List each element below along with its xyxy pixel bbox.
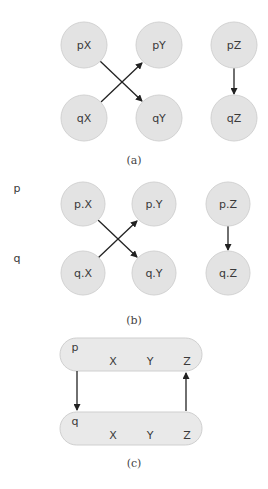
group-label-p: p xyxy=(72,341,79,354)
group-label-q: q xyxy=(72,415,79,428)
node-qX: qX xyxy=(61,95,107,141)
node-pY: pY xyxy=(136,22,182,68)
edge-pX-qY xyxy=(100,61,142,101)
group-p: p X Y Z xyxy=(60,338,202,371)
caption-c: (c) xyxy=(127,457,142,470)
node-qY: qY xyxy=(136,95,182,141)
node-p.Y: p.Y xyxy=(132,182,176,226)
field-q-Y: Y xyxy=(146,429,154,442)
node-label: p.X xyxy=(74,198,92,211)
field-p-Y: Y xyxy=(146,355,154,368)
node-label: qZ xyxy=(227,112,242,125)
node-label: pY xyxy=(152,39,166,52)
edge-qX-pY xyxy=(98,221,137,258)
edge-pX-qY xyxy=(98,220,137,257)
node-q.Y: q.Y xyxy=(132,251,176,295)
node-label: qX xyxy=(77,112,92,125)
node-label: pX xyxy=(77,39,92,52)
field-p-X: X xyxy=(109,355,117,368)
field-q-X: X xyxy=(109,429,117,442)
node-qZ: qZ xyxy=(211,95,257,141)
node-pZ: pZ xyxy=(211,22,257,68)
node-label: q.Z xyxy=(219,267,237,280)
node-p.X: p.X xyxy=(61,182,105,226)
panel-b: p q p.X p.Y p.Z q.X q.Y q.Z (b) xyxy=(14,182,250,327)
field-p-Z: Z xyxy=(183,355,191,368)
edge-qX-pY xyxy=(101,63,142,102)
row-label-p: p xyxy=(14,182,21,195)
node-label: pZ xyxy=(227,39,242,52)
panel-a: pX pY pZ qX qY qZ (a) xyxy=(61,22,257,167)
panel-c: p X Y Z q X Y Z (c) xyxy=(60,338,202,470)
group-q: q X Y Z xyxy=(60,412,202,445)
node-pX: pX xyxy=(61,22,107,68)
node-q.X: q.X xyxy=(61,251,105,295)
node-q.Z: q.Z xyxy=(206,251,250,295)
node-label: qY xyxy=(152,112,166,125)
node-label: q.X xyxy=(74,267,92,280)
node-label: p.Z xyxy=(219,198,237,211)
caption-a: (a) xyxy=(126,154,141,167)
diagram-canvas: pX pY pZ qX qY qZ (a) p q xyxy=(0,0,268,489)
node-label: p.Y xyxy=(145,198,162,211)
field-q-Z: Z xyxy=(183,429,191,442)
node-p.Z: p.Z xyxy=(206,182,250,226)
node-label: q.Y xyxy=(145,267,162,280)
caption-b: (b) xyxy=(126,314,142,327)
row-label-q: q xyxy=(14,252,21,265)
